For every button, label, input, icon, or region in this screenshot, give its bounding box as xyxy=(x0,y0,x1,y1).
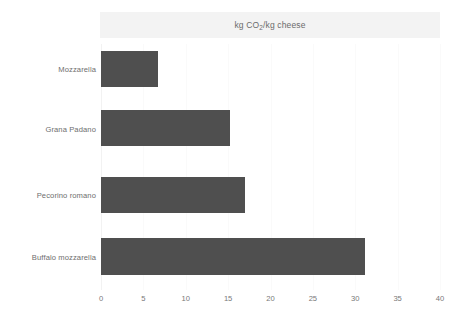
bar-row-mozzarella xyxy=(101,51,440,87)
chart-title-before: kg CO xyxy=(234,20,259,30)
bar-row-buffalo-mozzarella xyxy=(101,238,440,275)
x-tick-label-2: 10 xyxy=(182,294,190,303)
x-tick-label-6: 30 xyxy=(351,294,359,303)
bar-row-pecorino-romano xyxy=(101,177,440,213)
x-tick-label-8: 40 xyxy=(436,294,444,303)
bar-buffalo-mozzarella[interactable] xyxy=(101,238,365,275)
chart-title-after: /kg cheese xyxy=(263,20,306,30)
chart-container: kg CO2/kg cheese Mozzarella Grana Padano… xyxy=(0,0,453,327)
category-label-2: Pecorino romano xyxy=(4,191,96,200)
category-label-3: Buffalo mozzarella xyxy=(4,253,96,262)
bar-row-grana-padano xyxy=(101,110,440,146)
x-tick-label-7: 35 xyxy=(393,294,401,303)
x-axis: 0 5 10 15 20 25 30 35 40 xyxy=(101,294,440,310)
gridline-40 xyxy=(440,44,441,290)
bar-grana-padano[interactable] xyxy=(101,110,230,146)
x-tick-label-1: 5 xyxy=(141,294,145,303)
plot-area xyxy=(101,44,440,290)
x-tick-label-4: 20 xyxy=(266,294,274,303)
chart-title-subscript: 2 xyxy=(259,24,263,31)
chart-title-band: kg CO2/kg cheese xyxy=(100,12,440,38)
x-tick-label-0: 0 xyxy=(99,294,103,303)
x-tick-label-5: 25 xyxy=(309,294,317,303)
chart-title: kg CO2/kg cheese xyxy=(100,20,440,30)
x-tick-label-3: 15 xyxy=(224,294,232,303)
category-label-0: Mozzarella xyxy=(4,65,96,74)
bar-pecorino-romano[interactable] xyxy=(101,177,245,213)
category-axis: Mozzarella Grana Padano Pecorino romano … xyxy=(0,44,96,290)
category-label-1: Grana Padano xyxy=(4,125,96,134)
bar-mozzarella[interactable] xyxy=(101,51,158,87)
